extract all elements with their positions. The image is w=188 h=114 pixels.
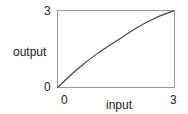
x-tick-max: 3 xyxy=(170,94,177,106)
y-tick-max: 3 xyxy=(44,5,51,17)
x-axis-label: input xyxy=(106,99,132,111)
y-axis-label: output xyxy=(13,46,46,58)
x-tick-min: 0 xyxy=(61,94,68,106)
data-curve xyxy=(58,11,175,88)
y-tick-min: 0 xyxy=(44,81,51,93)
plot-frame xyxy=(58,11,175,88)
